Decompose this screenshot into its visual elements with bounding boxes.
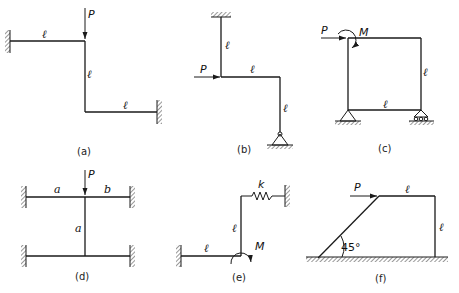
moment-arrow [338,30,356,48]
load-label: P [88,168,95,181]
pin-support [335,110,361,125]
fixed-support-top [211,12,231,17]
length-label: a [54,183,61,196]
load-label: P [88,8,95,21]
length-label: a [75,222,82,235]
spring-label: k [258,178,265,191]
pin-support [267,132,293,149]
length-label: ℓ [439,221,444,234]
fixed-support [130,186,135,208]
angle-label: 45° [341,241,361,254]
load-label: P [321,24,328,37]
load-label: P [200,63,207,76]
structural-frames-figure: P ℓ ℓ ℓ (a) P ℓ ℓ ℓ (b) P M ℓ [0,0,459,293]
panel-b: P ℓ ℓ ℓ (b) [194,12,293,155]
panel-caption: (b) [237,144,251,155]
fixed-support [21,186,26,208]
panel-a: P ℓ ℓ ℓ (a) [5,8,162,157]
length-label: ℓ [250,63,255,76]
fixed-support-left [176,245,181,267]
length-label: ℓ [383,98,388,111]
length-label: ℓ [232,222,237,235]
spring [252,192,272,200]
panel-caption: (c) [378,143,391,154]
length-label: ℓ [423,66,428,79]
fixed-support-right [285,185,290,207]
moment-label: M [359,26,369,39]
length-label: ℓ [42,28,47,41]
fixed-support-right [157,100,162,124]
length-label: ℓ [123,99,128,112]
panel-d: P a b a (d) [21,168,135,282]
panel-caption: (d) [75,271,89,282]
fixed-support [130,245,135,267]
fixed-support-left [5,30,10,53]
panel-caption: (f) [375,273,386,284]
length-label: ℓ [204,242,209,255]
moment-label: M [255,240,265,253]
length-label: ℓ [225,39,230,52]
panel-e: k ℓ ℓ M (e) [176,178,290,283]
fixed-support [21,245,26,267]
ground-hatch [306,257,448,262]
length-label: ℓ [87,68,92,81]
length-label: b [104,183,111,196]
length-label: ℓ [283,102,288,115]
panel-caption: (e) [232,272,246,283]
length-label: ℓ [405,183,410,196]
panel-caption: (a) [77,146,91,157]
panel-c: P M ℓ ℓ (c) [321,24,434,154]
load-label: P [354,181,361,194]
panel-f: 45° P ℓ ℓ (f) [306,181,448,284]
roller-support [409,110,434,125]
